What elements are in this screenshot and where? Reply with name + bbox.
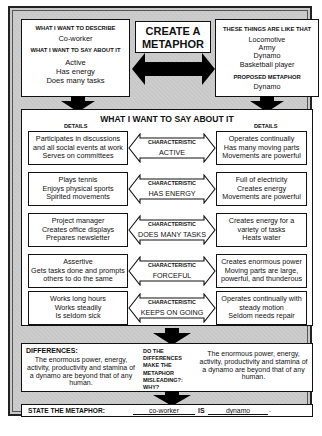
say-about-list: Active Has energy Does many tasks [22,58,129,86]
detail-line: Prepares newsletter [29,234,127,242]
right-detail-box: Operates continually with steady motion … [216,291,307,325]
characteristic-label: CHARACTERISTIC [128,139,216,145]
subject-blank: co-worker [133,406,195,415]
like-that-label: THESE THINGS ARE LIKE THAT [216,25,318,34]
right-detail-box: Creates enormous power Moving parts are … [216,254,307,288]
proposed-metaphor-value: Dynamo [216,83,318,92]
characteristic-label: CHARACTERISTIC [128,299,216,305]
characteristic-label: CHARACTERISTIC [128,180,216,186]
describe-label: WHAT I WANT TO DESCRIBE [22,24,129,33]
state-metaphor-box: STATE THE METAPHOR: co-worker IS dynamo … [21,404,313,417]
describe-value: Co-worker [22,35,129,44]
left-detail-box: Assertive Gets tasks done and prompts ot… [28,254,128,288]
detail-line: powerful, and thunderous [217,275,306,283]
characteristic-arrow: CHARACTERISTIC HAS ENERGY [128,174,216,204]
misleading-answer: The enormous power, energy, activity, pr… [197,350,310,381]
question-line: MISLEADING?: [143,377,197,384]
left-detail-box: Plays tennis Enjoys physical sports Spir… [28,172,128,206]
state-metaphor-label: STATE THE METAPHOR: [28,407,105,414]
page-title: CREATE A METAPHOR [135,21,211,53]
characteristic-arrow: CHARACTERISTIC KEEPS ON GOING [128,293,216,323]
title-line-1: CREATE A [136,25,210,38]
right-detail-box: Operates continually Has many moving par… [216,131,307,165]
detail-line: Movements are powerful [217,193,306,201]
differences-text: The enormous power, energy, activity, pr… [25,356,137,387]
like-that-list: Locomotive Army Dynamo Basketball player [216,36,318,70]
right-detail-box: Creates energy for a variety of tasks He… [216,213,307,247]
differences-label: DIFFERENCES: [26,347,78,354]
characteristic-label: CHARACTERISTIC [128,262,216,268]
describe-box: WHAT I WANT TO DESCRIBE Co-worker WHAT I… [21,19,130,97]
period: . [269,406,271,413]
detail-line: Seldom needs repair [217,312,306,320]
characteristic-value: ACTIVE [128,148,216,157]
say-about-item: Active [22,58,129,67]
question-line: MAKE THE [143,362,197,369]
title-line-2: METAPHOR [136,38,210,51]
connector-is: IS [198,407,205,414]
say-about-item: Has energy [22,67,129,76]
detail-line: Spirited movements [29,193,127,201]
characteristic-label: CHARACTERISTIC [128,221,216,227]
detail-line: others to do the same [29,275,127,283]
right-details-header: DETAILS [254,123,278,129]
like-that-box: THESE THINGS ARE LIKE THAT Locomotive Ar… [215,19,319,97]
question-line: METAPHOR [143,370,197,377]
say-about-section: WHAT I WANT TO SAY ABOUT IT DETAILS DETA… [21,109,313,326]
right-detail-box: Full of electricity Creates energy Movem… [216,172,307,206]
misleading-question: DO THE DIFFERENCES MAKE THE METAPHOR MIS… [143,348,197,391]
characteristic-arrow: CHARACTERISTIC ACTIVE [128,133,216,163]
characteristic-arrow: CHARACTERISTIC DOES MANY TASKS [128,215,216,245]
diagram-frame: WHAT I WANT TO DESCRIBE Co-worker WHAT I… [8,6,312,416]
detail-line: Movements are powerful [217,152,306,160]
left-detail-box: Project manager Creates office displays … [28,213,128,247]
proposed-metaphor-label: PROPOSED METAPHOR [216,73,318,82]
say-about-item: Does many tasks [22,76,129,85]
characteristic-value: KEEPS ON GOING [128,308,216,317]
metaphor-blank: dynamo [208,406,268,415]
left-details-header: DETAILS [64,123,88,129]
left-detail-box: Works long hours Works steadily Is seldo… [28,291,128,325]
left-detail-box: Participates in discussions and all soci… [28,131,128,165]
say-about-label: WHAT I WANT TO SAY ABOUT IT [22,46,129,55]
frame-background: WHAT I WANT TO DESCRIBE Co-worker WHAT I… [12,10,308,412]
question-line: DO THE [143,348,197,355]
characteristic-value: HAS ENERGY [128,189,216,198]
double-arrow-icon [132,52,215,86]
detail-line: Serves on committees [29,152,127,160]
detail-line: Heats water [217,234,306,242]
detail-line: Is seldom sick [29,312,127,320]
question-line: DIFFERENCES [143,355,197,362]
characteristic-value: FORCEFUL [128,271,216,280]
differences-box: DIFFERENCES: The enormous power, energy,… [21,343,313,392]
characteristic-arrow: CHARACTERISTIC FORCEFUL [128,256,216,286]
like-that-item: Basketball player [216,61,318,69]
characteristic-value: DOES MANY TASKS [128,230,216,239]
